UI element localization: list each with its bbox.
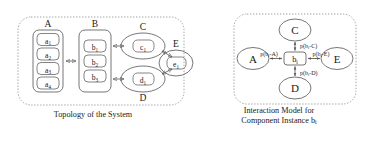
- label-group-b: B: [92, 19, 98, 29]
- right-caption-line2: Component Instance bi: [186, 116, 372, 127]
- left-caption-text: Topology of the System: [0, 110, 186, 120]
- label-node-a2: a2: [45, 51, 51, 61]
- label-node-C: C: [291, 24, 298, 36]
- left-panel-caption: Topology of the System: [0, 110, 186, 120]
- label-node-a1: a1: [45, 37, 51, 47]
- right-caption-line1: Interaction Model for: [186, 106, 372, 116]
- label-node-d1: d1: [140, 76, 147, 86]
- label-node-b2: b2: [92, 58, 99, 68]
- edge-label-bi-A: p(bi-A): [260, 51, 278, 58]
- figure-root: A B C D E a1 a2 a3 a4 b1 b2 b3 c1 d1 e1 …: [0, 0, 372, 145]
- label-node-a3: a3: [45, 66, 51, 76]
- label-group-d: D: [140, 93, 147, 103]
- edge-label-bi-E: p(bi-E): [313, 51, 330, 58]
- label-group-a: A: [45, 19, 52, 29]
- left-panel: A B C D E a1 a2 a3 a4 b1 b2 b3 c1 d1 e1: [18, 17, 193, 105]
- label-node-A: A: [249, 53, 257, 65]
- left-connections: [66, 46, 172, 79]
- label-node-E: E: [334, 53, 341, 65]
- edge-label-bi-D: p(bi-D): [300, 70, 318, 77]
- edge-label-bi-C: p(bi-C): [300, 43, 317, 50]
- label-node-D: D: [291, 82, 299, 94]
- label-group-c: C: [140, 22, 146, 32]
- label-node-b3: b3: [92, 73, 99, 83]
- label-node-e1: e1: [173, 60, 179, 70]
- label-node-a4: a4: [45, 80, 51, 90]
- label-node-c1: c1: [140, 43, 146, 53]
- right-panel: bi C A E D p(bi-C) p(bi-D) p(bi-A) p(bi-…: [234, 14, 356, 104]
- right-panel-caption: Interaction Model for Component Instance…: [186, 106, 372, 127]
- right-caption-line2-text: Component Instance b: [241, 116, 315, 125]
- label-node-b1: b1: [92, 43, 99, 53]
- label-node-bi: bi: [292, 55, 298, 65]
- label-group-e: E: [173, 39, 179, 49]
- right-caption-line2-subscript: i: [315, 119, 317, 125]
